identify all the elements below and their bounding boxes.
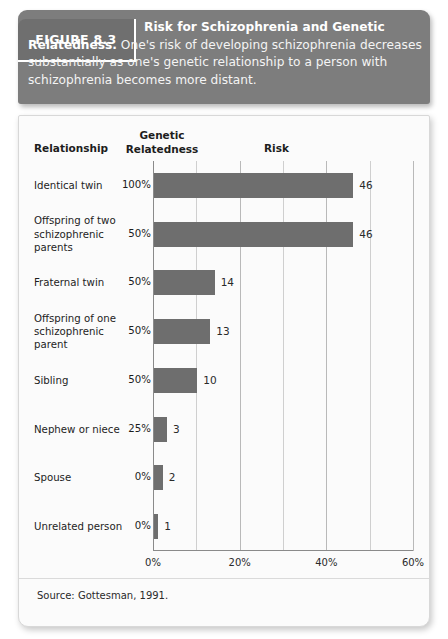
row-genetic-relatedness: 50% [115,325,151,336]
chart-plot-area: 4646141310321 [153,161,413,551]
y-axis-line [153,161,154,551]
bar [154,465,163,490]
bar-value-label: 1 [164,514,171,539]
row-label: Offspring of oneschizophrenicparent [34,312,124,352]
row-label: Nephew or niece [34,423,124,436]
bar [154,319,210,344]
row-genetic-relatedness: 100% [115,179,151,190]
row-genetic-relatedness: 0% [115,520,151,531]
row-label-line: Fraternal twin [34,276,124,289]
row-label: Sibling [34,374,124,387]
figure-caption-band: FIGURE 8.3 Risk for Schizophrenia and Ge… [18,10,430,104]
row-label-line: Offspring of one [34,312,124,325]
bar [154,173,353,198]
column-header-genetic-line1: Genetic [119,128,205,142]
gridline-40 [326,161,327,551]
row-genetic-relatedness: 50% [115,374,151,385]
bar-value-label: 46 [359,222,372,247]
gridline-10 [196,161,197,551]
row-label-line: schizophrenic [34,228,124,241]
gridline-20 [240,161,241,551]
row-label-line: Spouse [34,471,124,484]
column-header-risk: Risk [264,142,289,154]
column-header-relationship: Relationship [34,142,108,154]
row-genetic-relatedness: 50% [115,228,151,239]
row-label-line: schizophrenic [34,325,124,338]
x-tick-label: 20% [229,557,251,568]
bar-value-label: 10 [203,368,216,393]
row-label-line: Identical twin [34,179,124,192]
gridline-50 [370,161,371,551]
source-divider [19,578,429,579]
chart-card: Relationship Genetic Relatedness Risk Id… [18,115,430,627]
row-genetic-relatedness: 50% [115,276,151,287]
gridline-60 [413,161,414,551]
row-label: Unrelated person [34,520,124,533]
row-label-line: Nephew or niece [34,423,124,436]
row-label-line: Unrelated person [34,520,124,533]
row-label-line: Sibling [34,374,124,387]
column-header-genetic-relatedness: Genetic Relatedness [119,128,205,156]
figure-caption-text: Risk for Schizophrenia and Genetic Relat… [28,19,422,89]
bar [154,417,167,442]
x-axis-line [153,550,413,551]
row-genetic-relatedness: 0% [115,471,151,482]
bar [154,368,197,393]
row-genetic-relatedness: 25% [115,423,151,434]
x-tick-label: 40% [315,557,337,568]
source-note: Source: Gottesman, 1991. [37,590,168,601]
row-label-line: parents [34,241,124,254]
gridline-30 [283,161,284,551]
bar-value-label: 46 [359,173,372,198]
column-header-genetic-line2: Relatedness [119,142,205,156]
row-label-line: Offspring of two [34,214,124,227]
bar-value-label: 14 [221,270,234,295]
x-tick-label: 0% [145,557,161,568]
row-label: Offspring of twoschizophrenicparents [34,214,124,254]
row-label: Fraternal twin [34,276,124,289]
row-label: Spouse [34,471,124,484]
bar-value-label: 13 [216,319,229,344]
bar [154,222,353,247]
bar [154,270,215,295]
x-tick-label: 60% [402,557,424,568]
row-label-line: parent [34,338,124,351]
bar-value-label: 2 [169,465,176,490]
bar [154,514,158,539]
bar-value-label: 3 [173,417,180,442]
row-label: Identical twin [34,179,124,192]
